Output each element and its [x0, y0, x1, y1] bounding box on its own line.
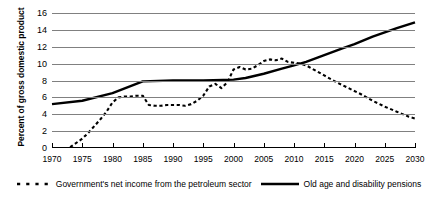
x-axis-tick — [113, 143, 114, 148]
gridline — [52, 30, 415, 31]
gridline — [52, 13, 415, 14]
x-axis-tick — [234, 143, 235, 148]
y-axis-tick-label: 2 — [42, 127, 47, 136]
chart-legend: Government's net income from the petrole… — [0, 179, 438, 189]
x-axis-tick-label: 1990 — [164, 155, 183, 164]
x-axis-tick-label: 2000 — [224, 155, 243, 164]
x-axis-tick-label: 2005 — [254, 155, 273, 164]
x-axis-tick — [143, 143, 144, 148]
x-axis-tick — [294, 143, 295, 148]
legend-entry: Old age and disability pensions — [261, 179, 422, 189]
legend-label: Old age and disability pensions — [304, 179, 422, 189]
x-axis-tick-label: 2030 — [406, 155, 425, 164]
y-axis-tick-label: 6 — [42, 93, 47, 102]
plot-area: 0246810121416197019751980198519901995200… — [52, 13, 415, 148]
legend-entry: Government's net income from the petrole… — [17, 179, 252, 189]
x-axis-tick-label: 2020 — [345, 155, 364, 164]
legend-dashed-swatch-icon — [17, 181, 51, 187]
y-axis-tick-label: 14 — [37, 25, 47, 34]
y-axis-tick-label: 12 — [37, 42, 47, 51]
legend-label: Government's net income from the petrole… — [56, 179, 252, 189]
x-axis-tick — [415, 143, 416, 148]
x-axis-tick-label: 1980 — [103, 155, 122, 164]
gridline — [52, 97, 415, 98]
x-axis-tick-label: 1970 — [43, 155, 62, 164]
x-axis-tick-label: 2010 — [285, 155, 304, 164]
gridline — [52, 64, 415, 65]
x-axis-tick — [355, 143, 356, 148]
x-axis-tick-label: 2025 — [375, 155, 394, 164]
gridline — [52, 81, 415, 82]
y-axis-tick-label: 16 — [37, 9, 47, 18]
x-axis-tick-label: 1985 — [133, 155, 152, 164]
y-axis-tick-label: 8 — [42, 76, 47, 85]
x-axis-tick-label: 1975 — [73, 155, 92, 164]
y-axis-title: Percent of gross domestic product — [16, 2, 26, 152]
x-axis-tick — [82, 143, 83, 148]
legend-solid-swatch-icon — [261, 181, 299, 187]
gridline — [52, 114, 415, 115]
y-axis-tick-label: 0 — [42, 144, 47, 153]
x-axis-tick — [264, 143, 265, 148]
x-axis-tick — [203, 143, 204, 148]
x-axis-tick-label: 2015 — [315, 155, 334, 164]
y-axis-tick-label: 10 — [37, 59, 47, 68]
x-axis-tick — [385, 143, 386, 148]
chart-container: Percent of gross domestic product 024681… — [0, 0, 438, 200]
x-axis-tick — [52, 143, 53, 148]
x-axis-tick — [173, 143, 174, 148]
x-axis-tick — [324, 143, 325, 148]
x-axis-tick-label: 1995 — [194, 155, 213, 164]
series-line — [70, 59, 415, 148]
gridline — [52, 47, 415, 48]
gridline — [52, 131, 415, 132]
y-axis-tick-label: 4 — [42, 110, 47, 119]
